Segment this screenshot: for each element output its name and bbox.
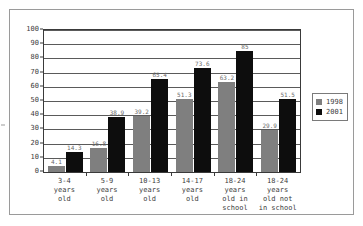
bar-2001-5-9 years old[interactable]: 38.9	[108, 117, 125, 172]
bar-group: 29.951.5	[257, 30, 300, 172]
bar-value-label: 29.9	[262, 123, 276, 129]
y-axis: 0102030405060708090100	[19, 29, 43, 173]
x-axis-category-line: years	[214, 186, 257, 195]
x-axis-category-label: 18-24yearsold notin school	[256, 177, 299, 213]
x-axis-tick-mark	[214, 173, 215, 176]
x-axis-category-label: 14-17yearsold	[171, 177, 214, 204]
bar-1998-5-9 years old[interactable]: 16.8	[90, 148, 107, 172]
x-axis-category-line: 3-4	[43, 177, 86, 186]
x-axis-category-labels: 3-4yearsold5-9yearsold10-13yearsold14-17…	[43, 177, 301, 223]
x-axis-category-line: 18-24	[256, 177, 299, 186]
bar-group: 39.265.4	[129, 30, 172, 172]
bar-value-label: 16.8	[92, 141, 106, 147]
bar-2001-18-24 years old not in school[interactable]: 51.5	[279, 99, 296, 172]
legend-item-2001[interactable]: 2001	[316, 107, 343, 117]
chart-outer-frame: 0102030405060708090100 4.114.316.838.939…	[9, 9, 354, 215]
bar-1998-14-17 years old[interactable]: 51.3	[176, 99, 193, 172]
legend-swatch-1998	[316, 99, 322, 105]
bar-value-label: 51.5	[280, 92, 294, 98]
bar-value-label: 85	[241, 44, 248, 50]
bar-1998-18-24 years old in school[interactable]: 63.2	[218, 82, 235, 172]
x-axis-category-line: years	[128, 186, 171, 195]
y-axis-tick-label: 30	[31, 125, 39, 132]
legend-item-1998[interactable]: 1998	[316, 97, 343, 107]
x-axis-tick-mark	[128, 173, 129, 176]
y-axis-tick-label: 50	[31, 97, 39, 104]
x-axis-category-label: 3-4yearsold	[43, 177, 86, 204]
x-axis-category-line: years	[256, 186, 299, 195]
x-axis-category-line: old	[43, 195, 86, 204]
y-axis-tick-label: 40	[31, 111, 39, 118]
x-axis-category-line: years	[43, 186, 86, 195]
y-axis-tick-label: 10	[31, 153, 39, 160]
chart-legend: 1998 2001	[312, 93, 348, 121]
bar-value-label: 38.9	[110, 110, 124, 116]
bar-2001-18-24 years old in school[interactable]: 85	[236, 51, 253, 172]
x-axis-tick-mark	[256, 173, 257, 176]
bar-2001-10-13 years old[interactable]: 65.4	[151, 79, 168, 172]
bar-value-label: 63.2	[220, 75, 234, 81]
x-axis-category-line: 18-24	[214, 177, 257, 186]
x-axis-category-line: years	[171, 186, 214, 195]
y-axis-tick-label: 0	[35, 168, 39, 175]
scan-edge-artifact	[1, 124, 5, 126]
bar-value-label: 73.6	[195, 61, 209, 67]
x-axis-category-line: old	[171, 195, 214, 204]
bar-group: 51.373.6	[172, 30, 215, 172]
x-axis-category-label: 5-9yearsold	[86, 177, 129, 204]
y-axis-tick-label: 60	[31, 82, 39, 89]
bar-group: 16.838.9	[87, 30, 130, 172]
bar-1998-3-4 years old[interactable]: 4.1	[48, 166, 65, 172]
x-axis-category-line: school	[214, 204, 257, 213]
x-axis-category-line: old not	[256, 195, 299, 204]
x-axis-category-line: years	[86, 186, 129, 195]
x-axis-category-line: 14-17	[171, 177, 214, 186]
bar-value-label: 14.3	[67, 145, 81, 151]
x-axis-category-label: 18-24yearsold inschool	[214, 177, 257, 213]
bar-1998-18-24 years old not in school[interactable]: 29.9	[261, 130, 278, 172]
y-axis-tick-label: 90	[31, 40, 39, 47]
bar-value-label: 51.3	[177, 92, 191, 98]
bar-group: 4.114.3	[44, 30, 87, 172]
bars-layer: 4.114.316.838.939.265.451.373.663.28529.…	[44, 30, 300, 172]
y-axis-tick-label: 100	[26, 26, 39, 33]
bar-value-label: 65.4	[152, 72, 166, 78]
legend-swatch-2001	[316, 109, 322, 115]
x-axis-tick-mark	[86, 173, 87, 176]
x-axis-category-line: in school	[256, 204, 299, 213]
bar-2001-14-17 years old[interactable]: 73.6	[194, 68, 211, 173]
x-axis-category-line: old in	[214, 195, 257, 204]
y-axis-tick-label: 80	[31, 54, 39, 61]
x-axis-category-line: 5-9	[86, 177, 129, 186]
x-axis-category-line: old	[86, 195, 129, 204]
y-axis-tick-label: 20	[31, 139, 39, 146]
bar-1998-10-13 years old[interactable]: 39.2	[133, 116, 150, 172]
bar-value-label: 4.1	[51, 159, 62, 165]
x-axis-category-line: old	[128, 195, 171, 204]
x-axis-category-label: 10-13yearsold	[128, 177, 171, 204]
y-axis-tick-label: 70	[31, 68, 39, 75]
x-axis-tick-mark	[171, 173, 172, 176]
x-axis-category-line: 10-13	[128, 177, 171, 186]
bar-2001-3-4 years old[interactable]: 14.3	[66, 152, 83, 172]
legend-label-1998: 1998	[326, 99, 343, 106]
legend-label-2001: 2001	[326, 109, 343, 116]
bar-group: 63.285	[215, 30, 258, 172]
bar-value-label: 39.2	[134, 109, 148, 115]
